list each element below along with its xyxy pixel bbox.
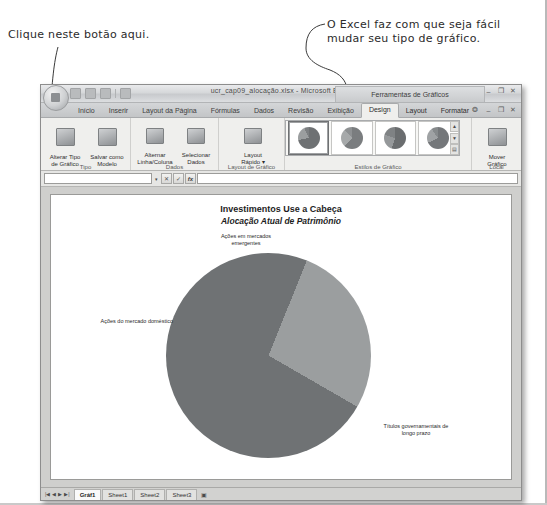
annotation-right-text: O Excel faz com que seja fácil mudar seu…: [327, 18, 500, 46]
sheet-tab-graf1[interactable]: Gráf1: [74, 489, 102, 500]
ribbon-group-dados: Alternar Linha/Coluna Selecionar Dados D…: [131, 118, 219, 170]
previous-sheet-icon[interactable]: ◀: [52, 491, 56, 497]
tab-formatar[interactable]: Formatar: [434, 104, 476, 117]
title-bar: ucr_cap09_alocação.xlsx - Microsoft Exce…: [41, 85, 521, 103]
change-chart-type-button[interactable]: Alterar Tipo de Gráfico: [45, 121, 85, 168]
workbook-close-icon[interactable]: ✕: [508, 106, 517, 114]
gallery-scroll-down-icon[interactable]: ▼: [450, 133, 459, 144]
last-sheet-icon[interactable]: ▶|: [64, 491, 69, 497]
accept-formula-icon[interactable]: ✓: [173, 173, 184, 184]
ribbon-group-tipo: Alterar Tipo de Gráfico Salvar como Mode…: [41, 118, 131, 170]
cancel-formula-icon[interactable]: ✕: [161, 173, 172, 184]
gallery-scroll-up-icon[interactable]: ▲: [450, 121, 459, 132]
tab-inserir[interactable]: Inserir: [102, 104, 135, 117]
select-data-button[interactable]: Selecionar Dados: [176, 121, 216, 166]
switch-row-column-icon: [146, 128, 164, 144]
ribbon-group-chart-layout-label: Layout de Gráfico: [219, 164, 284, 170]
tab-formulas[interactable]: Fórmulas: [204, 104, 247, 117]
close-icon[interactable]: ✕: [508, 87, 517, 95]
sheet-tab-sheet2[interactable]: Sheet2: [134, 489, 165, 500]
next-sheet-icon[interactable]: ▶: [58, 491, 62, 497]
ribbon-tab-strip: Início Inserir Layout da Página Fórmulas…: [41, 103, 521, 118]
first-sheet-icon[interactable]: |◀: [45, 491, 50, 497]
ribbon-group-chart-layout: Layout Rápido ▾ Layout de Gráfico: [219, 118, 285, 170]
chart-type-icon: [56, 128, 75, 146]
ribbon-group-local-label: Local: [472, 164, 521, 170]
chart-style-option-3[interactable]: [375, 121, 416, 155]
minimize-icon[interactable]: –: [484, 88, 493, 95]
chart-style-option-1[interactable]: [288, 121, 329, 155]
sheet-navigation-arrows[interactable]: |◀ ◀ ▶ ▶|: [45, 491, 70, 497]
annotation-left-text: Clique neste botão aqui.: [8, 28, 150, 42]
tab-inicio[interactable]: Início: [71, 104, 102, 117]
ribbon-group-chart-styles-label: Estilos de Gráfico: [285, 164, 471, 170]
insert-function-icon[interactable]: fx: [185, 173, 196, 184]
ribbon-group-chart-styles: ▲ ▼ ▤ Estilos de Gráfico: [285, 118, 472, 170]
contextual-tools-banner: Ferramentas de Gráficos: [335, 86, 485, 102]
tab-revisao[interactable]: Revisão: [281, 104, 320, 117]
ribbon-group-dados-label: Dados: [131, 164, 218, 170]
tab-design[interactable]: Design: [361, 103, 399, 118]
save-as-template-button[interactable]: Salvar como Modelo: [87, 121, 127, 168]
name-box-dropdown-icon[interactable]: ▾: [155, 176, 158, 182]
tab-layout[interactable]: Layout: [399, 104, 434, 117]
restore-icon[interactable]: ❐: [496, 87, 505, 95]
workbook-minimize-icon[interactable]: –: [484, 107, 493, 114]
move-chart-icon: [488, 128, 507, 146]
new-sheet-icon[interactable]: ▣: [201, 491, 207, 498]
pie-thumbnail-icon: [427, 127, 449, 149]
ribbon-group-local: Mover Gráfico Local: [472, 118, 521, 170]
switch-row-column-button[interactable]: Alternar Linha/Coluna: [135, 121, 175, 166]
move-chart-button[interactable]: Mover Gráfico: [477, 121, 517, 168]
status-bar: Pronto 100% – +: [41, 500, 521, 501]
chart-sheet-area: Investimentos Use a Cabeça Alocação Atua…: [41, 187, 521, 487]
workbook-window-controls: ❂ – ❐ ✕: [472, 106, 517, 114]
pie-chart[interactable]: [166, 253, 371, 458]
gallery-expand-icon[interactable]: ▤: [450, 144, 459, 155]
chart-plot-frame[interactable]: Investimentos Use a Cabeça Alocação Atua…: [50, 194, 512, 480]
formula-input[interactable]: [197, 173, 518, 184]
formula-bar: ▾ ✕ ✓ fx: [41, 171, 521, 187]
chart-title[interactable]: Investimentos Use a Cabeça: [51, 204, 511, 214]
help-icon[interactable]: ❂: [472, 106, 478, 114]
sheet-tab-sheet1[interactable]: Sheet1: [102, 489, 133, 500]
save-template-icon: [98, 128, 117, 146]
sheet-tab-sheet3[interactable]: Sheet3: [166, 489, 197, 500]
workbook-restore-icon[interactable]: ❐: [496, 106, 505, 114]
ribbon-group-tipo-label: Tipo: [41, 164, 130, 170]
window-controls: – ❐ ✕: [484, 87, 517, 95]
sheet-tab-bar: |◀ ◀ ▶ ▶| Gráf1 Sheet1 Sheet2 Sheet3 ▣: [41, 487, 521, 500]
pie-label-government-bonds: Títulos governamentais de longo prazo: [366, 423, 466, 437]
quick-layout-icon: [244, 128, 262, 144]
chart-style-option-2[interactable]: [331, 121, 372, 155]
chart-styles-gallery[interactable]: ▲ ▼ ▤: [285, 120, 460, 156]
chart-subtitle[interactable]: Alocação Atual de Patrimônio: [51, 216, 511, 226]
ribbon-tabs: Início Inserir Layout da Página Fórmulas…: [71, 103, 476, 117]
pie-label-emerging-markets: Ações em mercados emergentes: [201, 233, 291, 247]
pie-label-domestic-stocks: Ações do mercado doméstico: [65, 318, 173, 325]
excel-window: ucr_cap09_alocação.xlsx - Microsoft Exce…: [40, 84, 522, 501]
pie-thumbnail-icon: [341, 127, 363, 149]
pie-thumbnail-icon: [298, 127, 320, 149]
select-data-icon: [187, 128, 205, 144]
ribbon: Alterar Tipo de Gráfico Salvar como Mode…: [41, 118, 521, 171]
tab-exibicao[interactable]: Exibição: [320, 104, 360, 117]
gallery-scrollbar[interactable]: ▲ ▼ ▤: [450, 121, 459, 155]
tab-layout-da-pagina[interactable]: Layout da Página: [135, 104, 204, 117]
pie-thumbnail-icon: [384, 127, 406, 149]
office-button-icon[interactable]: [43, 85, 69, 111]
tab-dados[interactable]: Dados: [247, 104, 281, 117]
quick-layout-button[interactable]: Layout Rápido ▾: [233, 121, 273, 166]
name-box[interactable]: [44, 173, 152, 184]
